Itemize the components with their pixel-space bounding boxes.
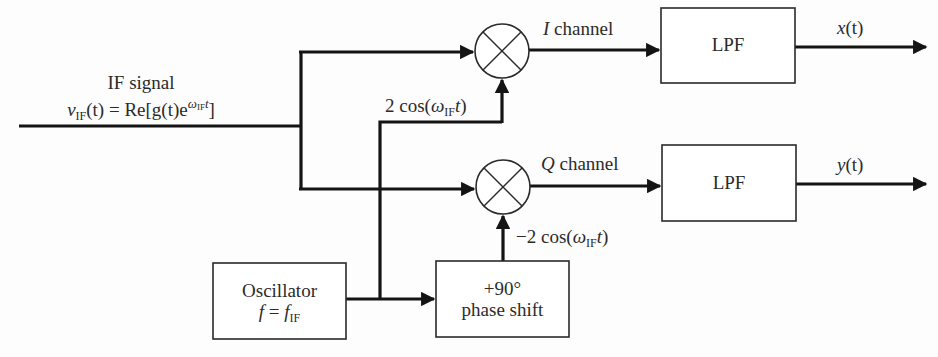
input-label: IF signal vIF(t) = Re[g(t)eωIFt] xyxy=(20,72,262,127)
x-output-label: x(t) xyxy=(837,17,863,38)
lo-label-q: −2 cos(ωIFt) xyxy=(516,226,608,254)
phase-shift-label: +90° phase shift xyxy=(436,278,569,320)
input-label-line1: IF signal xyxy=(20,72,262,93)
input-label-formula: vIF(t) = Re[g(t)eωIFt] xyxy=(20,93,262,127)
lo-label-i: 2 cos(ωIFt) xyxy=(385,95,467,123)
y-output-label: y(t) xyxy=(837,154,863,175)
lpf-i-label: LPF xyxy=(661,34,795,55)
mixer-q xyxy=(476,160,530,214)
iq-detector-diagram: IF signal vIF(t) = Re[g(t)eωIFt] 2 cos(ω… xyxy=(0,0,938,357)
lpf-q-label: LPF xyxy=(662,172,796,193)
i-channel-label: I channel xyxy=(543,18,613,39)
mixer-i xyxy=(475,24,529,78)
oscillator-label: Oscillator f = fIF xyxy=(213,280,346,329)
q-channel-label: Q channel xyxy=(541,153,619,174)
